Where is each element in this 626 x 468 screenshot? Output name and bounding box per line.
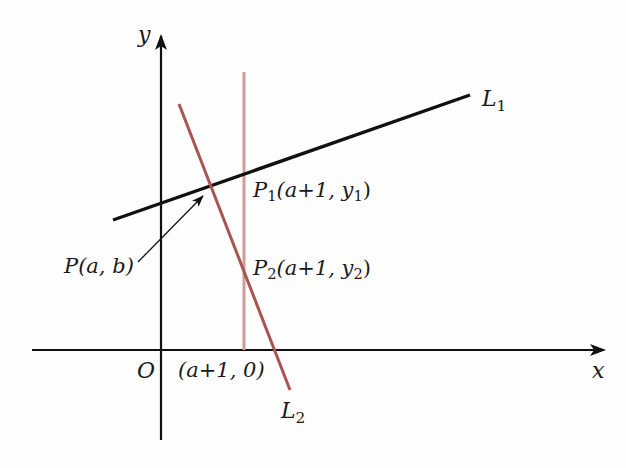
point-P1-coords-close: ) (363, 178, 371, 202)
origin-label: O (137, 360, 155, 382)
line-L2-label: L2 (281, 400, 305, 426)
point-P1-subscript: 1 (267, 187, 276, 204)
point-P2-coords: (a+1, y (277, 256, 354, 280)
point-P-name: P (64, 254, 78, 278)
point-P1-name: P (253, 178, 267, 202)
x-intercept-label: (a+1, 0) (178, 360, 265, 381)
point-P-coords: (a, b) (78, 254, 134, 278)
y-axis-label: y (138, 24, 150, 46)
point-P-label: P(a, b) (64, 256, 134, 277)
x-axis-label: x (592, 360, 604, 382)
point-P2-name: P (253, 256, 267, 280)
point-P2-coords-sub: 2 (353, 265, 362, 282)
line-L1-name: L (482, 86, 497, 111)
pointer-arrow-P (138, 196, 203, 262)
diagram-graphics (0, 0, 626, 468)
line-L1-label: L1 (482, 88, 506, 114)
line-L2-subscript: 2 (296, 409, 306, 427)
line-L2 (179, 104, 290, 390)
line-L2-name: L (281, 398, 296, 423)
point-P2-label: P2(a+1, y2) (253, 258, 371, 282)
diagram-canvas: y x O L1 L2 P1(a+1, y1) P2(a+1, y2) P(a,… (0, 0, 626, 468)
point-P1-label: P1(a+1, y1) (253, 180, 371, 204)
point-P2-coords-close: ) (363, 256, 371, 280)
point-P1-coords: (a+1, y (277, 178, 354, 202)
point-P1-coords-sub: 1 (353, 187, 362, 204)
point-P2-subscript: 2 (267, 265, 276, 282)
line-L1-subscript: 1 (497, 97, 507, 115)
